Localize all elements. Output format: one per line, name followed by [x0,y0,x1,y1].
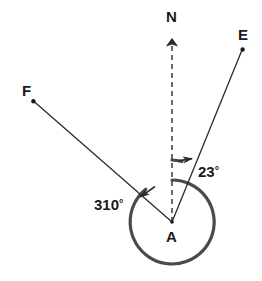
bearing-diagram: N E F A 23° 310° [0,0,262,281]
point-f-label: F [22,82,31,99]
north-label: N [166,8,177,25]
point-f-dot [31,99,35,103]
angle-310-value: 310 [94,196,119,213]
angle-23-value: 23 [198,163,215,180]
diagram-canvas [0,0,262,281]
vertex-a-label: A [166,228,177,245]
angle-310-label: 310° [94,196,123,213]
angle-310-degree-symbol: ° [119,197,123,209]
angle-arc-23-arrowhead [178,159,192,161]
vertex-a-dot [170,220,174,224]
point-e-label: E [238,26,248,43]
point-e-dot [240,47,244,51]
angle-23-label: 23° [198,163,219,180]
angle-23-degree-symbol: ° [215,164,219,176]
angle-arc-23 [172,159,192,162]
